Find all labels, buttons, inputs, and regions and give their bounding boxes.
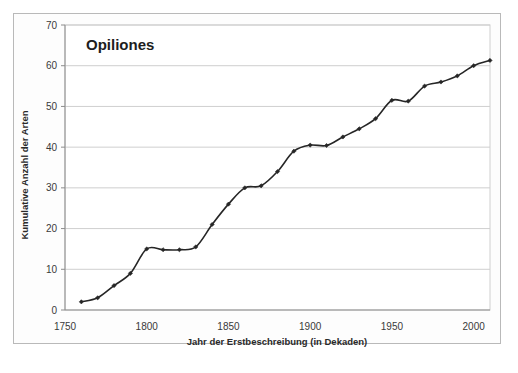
x-tick-label-1850: 1850: [217, 321, 240, 332]
x-tick-label-1900: 1900: [299, 321, 322, 332]
y-tick-label-30: 30: [46, 182, 58, 193]
y-axis-title: Kumulative Anzahl der Arten: [19, 110, 30, 239]
y-tick-label-60: 60: [46, 60, 58, 71]
y-tick-label-40: 40: [46, 142, 58, 153]
y-tick-label-70: 70: [46, 20, 58, 31]
chart-title: Opiliones: [86, 36, 154, 53]
x-tick-label-1950: 1950: [381, 321, 404, 332]
y-tick-marks: [61, 25, 65, 310]
line-chart: 010203040506070 175018001850190019502000…: [0, 0, 518, 373]
y-tick-label-50: 50: [46, 101, 58, 112]
plot-area: [65, 25, 490, 310]
x-tick-label-1800: 1800: [136, 321, 159, 332]
x-tick-label-2000: 2000: [463, 321, 486, 332]
x-tick-label-1750: 1750: [54, 321, 77, 332]
y-tick-labels: 010203040506070: [46, 20, 58, 316]
y-tick-label-10: 10: [46, 264, 58, 275]
y-tick-label-20: 20: [46, 223, 58, 234]
x-tick-labels: 175018001850190019502000: [54, 321, 485, 332]
x-axis-title: Jahr der Erstbeschreibung (in Dekaden): [187, 336, 368, 347]
y-tick-label-0: 0: [51, 305, 57, 316]
chart-figure: 010203040506070 175018001850190019502000…: [0, 0, 518, 373]
